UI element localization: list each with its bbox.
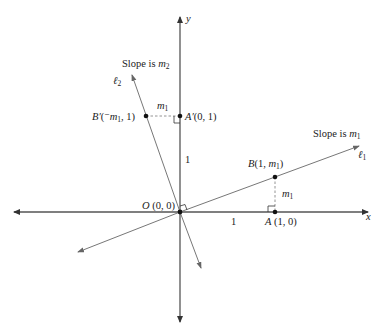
point-b [273, 175, 278, 180]
x-unit-label: 1 [231, 216, 236, 227]
x-axis-label: x [365, 211, 371, 222]
vertical-segment-label-m1: m1 [282, 188, 294, 201]
right-angle-marker-origin [180, 205, 187, 211]
point-label-b: B(1, m1) [248, 158, 284, 171]
line-label-l2: ℓ2 [113, 75, 121, 88]
point-bprime [144, 114, 149, 119]
point-a [273, 210, 278, 215]
horizontal-segment-label-m1: m1 [157, 100, 169, 113]
point-label-aprime: A′(0, 1) [184, 111, 217, 123]
perpendicular-slopes-diagram: x y 1 1 Slope is m2 Slope is m1 ℓ2 ℓ1 O … [0, 0, 383, 335]
y-axis-label: y [185, 13, 191, 24]
diagram-canvas: x y 1 1 Slope is m2 Slope is m1 ℓ2 ℓ1 O … [0, 0, 383, 335]
slope-label-l2: Slope is m2 [122, 58, 170, 71]
point-label-a: A (1, 0) [264, 216, 297, 228]
line-l1 [78, 146, 359, 252]
point-aprime [178, 114, 183, 119]
point-label-o: O (0, 0) [142, 200, 175, 212]
point-o [178, 210, 183, 215]
point-label-bprime: B′(⁻m1, 1) [92, 111, 136, 124]
slope-label-l1: Slope is m1 [313, 128, 361, 141]
y-unit-label: 1 [185, 154, 190, 165]
line-label-l1: ℓ1 [358, 149, 366, 162]
